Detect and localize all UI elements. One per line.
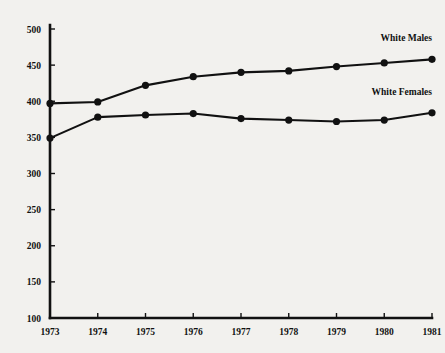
data-point xyxy=(237,69,244,76)
data-point xyxy=(381,59,388,66)
y-tick-label: 150 xyxy=(27,277,42,287)
data-point xyxy=(285,116,292,123)
data-point xyxy=(142,82,149,89)
data-point xyxy=(142,111,149,118)
y-tick-label: 350 xyxy=(27,133,42,143)
data-series-group xyxy=(46,56,435,142)
y-tick-label: 400 xyxy=(27,97,42,107)
y-axis: 500450400350300250200150100 xyxy=(27,25,55,324)
data-point xyxy=(285,67,292,74)
data-point xyxy=(190,73,197,80)
data-series xyxy=(46,56,435,107)
data-point xyxy=(428,56,435,63)
y-axis-tick-labels: 500450400350300250200150100 xyxy=(27,25,42,324)
x-tick-label: 1981 xyxy=(423,327,442,337)
x-tick-label: 1974 xyxy=(88,327,107,337)
x-tick-label: 1979 xyxy=(327,327,346,337)
data-point xyxy=(428,109,435,116)
data-series xyxy=(46,109,435,141)
x-tick-label: 1973 xyxy=(41,327,60,337)
data-point xyxy=(333,63,340,70)
chart-canvas: 500450400350300250200150100 197319741975… xyxy=(0,0,445,353)
y-tick-label: 500 xyxy=(27,25,42,35)
data-point xyxy=(381,116,388,123)
data-point xyxy=(46,100,53,107)
x-tick-label: 1975 xyxy=(136,327,155,337)
y-tick-label: 250 xyxy=(27,205,42,215)
x-tick-label: 1977 xyxy=(232,327,251,337)
x-axis-tick-labels: 197319741975197619771978197919801981 xyxy=(41,327,442,337)
x-tick-label: 1978 xyxy=(279,327,298,337)
data-point xyxy=(94,114,101,121)
series-inline-labels: White MalesWhite Females xyxy=(372,33,433,96)
x-tick-label: 1980 xyxy=(375,327,394,337)
x-axis: 197319741975197619771978197919801981 xyxy=(41,313,442,337)
x-tick-label: 1976 xyxy=(184,327,203,337)
data-point xyxy=(94,98,101,105)
data-point xyxy=(333,118,340,125)
y-tick-label: 100 xyxy=(27,314,42,324)
series-label: White Females xyxy=(372,87,433,97)
y-tick-label: 450 xyxy=(27,61,42,71)
data-point xyxy=(46,134,53,141)
data-point xyxy=(190,110,197,117)
series-label: White Males xyxy=(381,33,433,43)
data-point xyxy=(237,115,244,122)
line-chart: 500450400350300250200150100 197319741975… xyxy=(0,0,445,353)
y-tick-label: 300 xyxy=(27,169,42,179)
y-tick-label: 200 xyxy=(27,241,42,251)
